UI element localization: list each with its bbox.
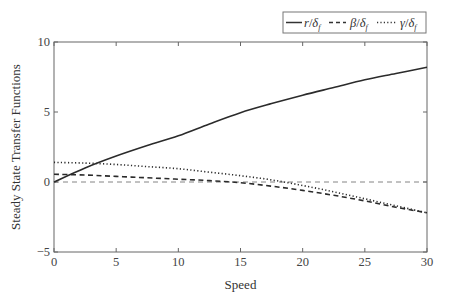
plot-area [54,42,427,252]
x-tick-label: 20 [296,255,309,269]
y-tick-label: 10 [38,35,51,49]
x-tick-label: 15 [234,255,247,269]
x-tick-label: 10 [172,255,185,269]
x-tick-label: 0 [51,255,57,269]
y-axis-label: Steady State Transfer Functions [8,64,23,230]
x-tick-label: 25 [359,255,372,269]
x-tick-label: 5 [113,255,119,269]
x-axis-label: Speed [225,277,257,292]
series-beta-line [54,174,427,213]
series-group [54,67,427,213]
series-gamma-line [54,162,427,212]
y-tick-label: −5 [37,245,50,259]
chart: r/δf β/δf γ/δf 051015202530 −50510 Speed… [0,0,450,298]
x-axis: 051015202530 [51,42,433,269]
x-tick-label: 30 [421,255,434,269]
legend: r/δf β/δf γ/δf [283,12,426,33]
y-tick-label: 5 [44,105,50,119]
y-tick-label: 0 [44,175,50,189]
y-axis: −50510 [37,35,427,259]
